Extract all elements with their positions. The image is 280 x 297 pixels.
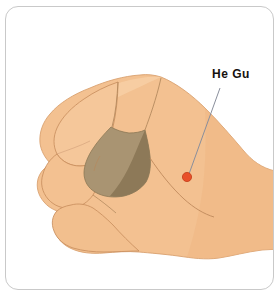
- acupoint-marker[interactable]: [182, 172, 191, 181]
- acupoint-label: He Gu: [212, 67, 250, 81]
- figure-card: He Gu: [0, 0, 280, 297]
- hand-illustration: [0, 0, 280, 297]
